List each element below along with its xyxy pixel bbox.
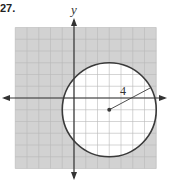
x-axis-left-arrow-icon [2,95,10,101]
x-axis-right-arrow-icon [159,95,167,101]
center-point [107,108,111,112]
y-axis-up-arrow-icon [71,18,77,26]
coordinate-graph: y4 [0,0,171,184]
radius-label: 4 [120,84,126,98]
y-axis-down-arrow-icon [71,172,77,180]
y-axis-label: y [69,2,77,17]
